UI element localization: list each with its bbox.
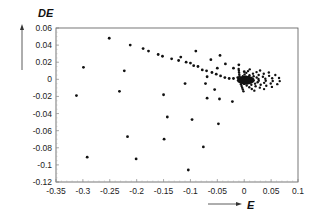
svg-text:DE: DE (38, 7, 54, 19)
data-point (194, 50, 197, 53)
data-point (205, 69, 208, 72)
data-point (231, 100, 234, 103)
data-point (232, 77, 235, 80)
x-tick-label: -0.2 (129, 186, 144, 196)
x-tick-label: -0.35 (46, 186, 66, 196)
plot-frame (56, 28, 298, 182)
y-tick-label: 0.02 (35, 57, 52, 67)
data-points (75, 37, 246, 172)
data-point (232, 67, 235, 70)
data-point (201, 69, 204, 72)
data-point (135, 158, 138, 161)
data-point (185, 61, 188, 64)
data-point (189, 62, 192, 65)
data-point (179, 56, 182, 59)
data-point (108, 37, 111, 40)
y-tick-label: -0.08 (33, 143, 53, 153)
x-axis-ticks: -0.35-0.3-0.25-0.2-0.15-0.1-0.0500.050.1 (46, 179, 304, 196)
data-point (184, 82, 187, 85)
data-point (219, 75, 222, 78)
x-tick-label: -0.3 (76, 186, 91, 196)
y-tick-label: 0.04 (35, 40, 52, 50)
x-tick-label: -0.25 (100, 186, 120, 196)
data-point (177, 59, 180, 62)
data-point (86, 156, 89, 159)
data-point (213, 88, 216, 91)
x-tick-label: 0 (242, 186, 247, 196)
y-axis-ticks: 0.060.040.020-0.02-0.04-0.06-0.08-0.1-0.… (33, 23, 59, 187)
data-point (163, 138, 166, 141)
data-point (126, 135, 129, 138)
y-tick-label: -0.02 (33, 91, 53, 101)
data-point (218, 98, 221, 101)
x-tick-label: 0.1 (292, 186, 304, 196)
data-point (202, 146, 205, 149)
scatter-chart: DE E 0.060.040.020-0.02-0.04-0.06-0.08-0… (0, 0, 321, 220)
y-tick-label: 0.06 (35, 23, 52, 33)
data-point (206, 75, 209, 78)
data-point (211, 71, 214, 74)
data-point (215, 73, 218, 76)
y-tick-label: 0 (47, 74, 52, 84)
data-point (204, 82, 207, 85)
data-point (82, 66, 85, 69)
x-tick-label: -0.05 (208, 186, 228, 196)
data-point (118, 90, 121, 93)
data-point (216, 67, 219, 70)
x-tick-label: 0.05 (263, 186, 280, 196)
data-point (187, 169, 190, 172)
data-point (170, 57, 173, 60)
data-point (129, 44, 132, 47)
x-tick-label: -0.1 (183, 186, 198, 196)
data-point (123, 69, 126, 72)
data-point (223, 76, 226, 79)
data-point (191, 118, 194, 121)
data-point (197, 65, 200, 68)
svg-text:E: E (247, 199, 255, 211)
data-point (192, 64, 195, 67)
data-point (224, 63, 227, 66)
x-axis-label: E (208, 199, 255, 211)
y-tick-label: -0.06 (33, 126, 53, 136)
data-point (157, 53, 160, 56)
data-point (147, 50, 150, 53)
data-point (206, 97, 209, 100)
data-point (75, 94, 78, 97)
data-point (228, 77, 231, 80)
data-point (237, 63, 240, 66)
y-tick-label: -0.04 (33, 109, 53, 119)
data-point (217, 122, 220, 125)
y-tick-label: -0.1 (37, 160, 52, 170)
data-point (219, 54, 222, 57)
data-point (166, 116, 169, 119)
x-tick-label: -0.15 (154, 186, 174, 196)
data-point (209, 58, 212, 61)
data-point (142, 47, 145, 50)
data-point (162, 93, 165, 96)
data-point (161, 55, 164, 58)
